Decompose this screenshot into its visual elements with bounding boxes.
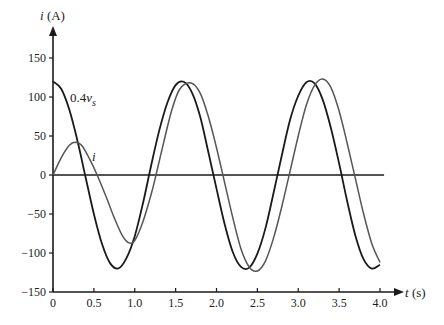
- x-tick-label: 3.5: [332, 296, 347, 310]
- x-axis-label: t (s): [405, 285, 426, 300]
- y-tick-label: 100: [28, 90, 46, 104]
- x-tick-label: 0.5: [86, 296, 101, 310]
- y-tick-label: 150: [28, 51, 46, 65]
- x-tick-label: 4.0: [373, 296, 388, 310]
- y-tick-label: 0: [40, 168, 46, 182]
- vs-series-label: 0.4vs: [70, 90, 96, 108]
- y-axis-label: i (A): [40, 8, 65, 23]
- y-tick-label: −150: [21, 285, 46, 299]
- x-tick-label: 0: [50, 296, 56, 310]
- y-tick-label: −100: [21, 246, 46, 260]
- x-axis-arrow-icon: [394, 288, 404, 296]
- x-tick-label: 1.5: [168, 296, 183, 310]
- i-series-label: i: [92, 149, 96, 164]
- x-tick-label: 3.0: [291, 296, 306, 310]
- chart-container: 150100500−50−100−15000.51.01.52.02.53.03…: [0, 0, 444, 325]
- line-chart: 150100500−50−100−15000.51.01.52.02.53.03…: [0, 0, 444, 325]
- y-axis-arrow-icon: [49, 26, 57, 36]
- x-tick-label: 2.0: [209, 296, 224, 310]
- y-tick-label: −50: [27, 207, 46, 221]
- axis-labels: i (A) t (s): [40, 8, 426, 300]
- x-tick-label: 1.0: [127, 296, 142, 310]
- x-tick-label: 2.5: [250, 296, 265, 310]
- y-tick-label: 50: [34, 129, 46, 143]
